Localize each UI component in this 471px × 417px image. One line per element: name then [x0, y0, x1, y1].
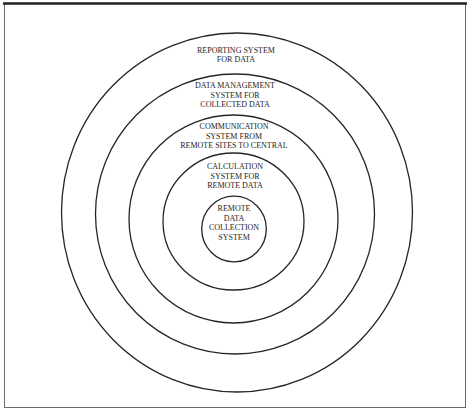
label-remote-data-collection-system: REMOTE DATA COLLECTION SYSTEM [134, 204, 334, 242]
label-communication-system: COMMUNICATION SYSTEM FROM REMOTE SITES T… [134, 122, 334, 151]
label-data-management-system: DATA MANAGEMENT SYSTEM FOR COLLECTED DAT… [135, 81, 335, 110]
label-calculation-system: CALCULATION SYSTEM FOR REMOTE DATA [135, 162, 335, 191]
label-reporting-system: REPORTING SYSTEM FOR DATA [136, 46, 336, 65]
